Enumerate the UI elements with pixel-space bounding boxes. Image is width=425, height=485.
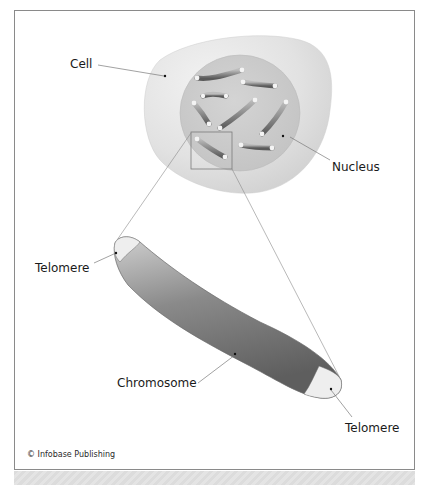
label-nucleus: Nucleus — [332, 161, 380, 173]
cell-chromosome-diagram — [0, 0, 425, 485]
copyright-credit: © Infobase Publishing — [27, 450, 115, 459]
big-chromosome — [114, 237, 341, 398]
label-telomere-top: Telomere — [35, 262, 89, 274]
label-chromosome: Chromosome — [117, 377, 197, 389]
label-cell: Cell — [70, 58, 92, 70]
label-telomere-bottom: Telomere — [345, 422, 399, 434]
